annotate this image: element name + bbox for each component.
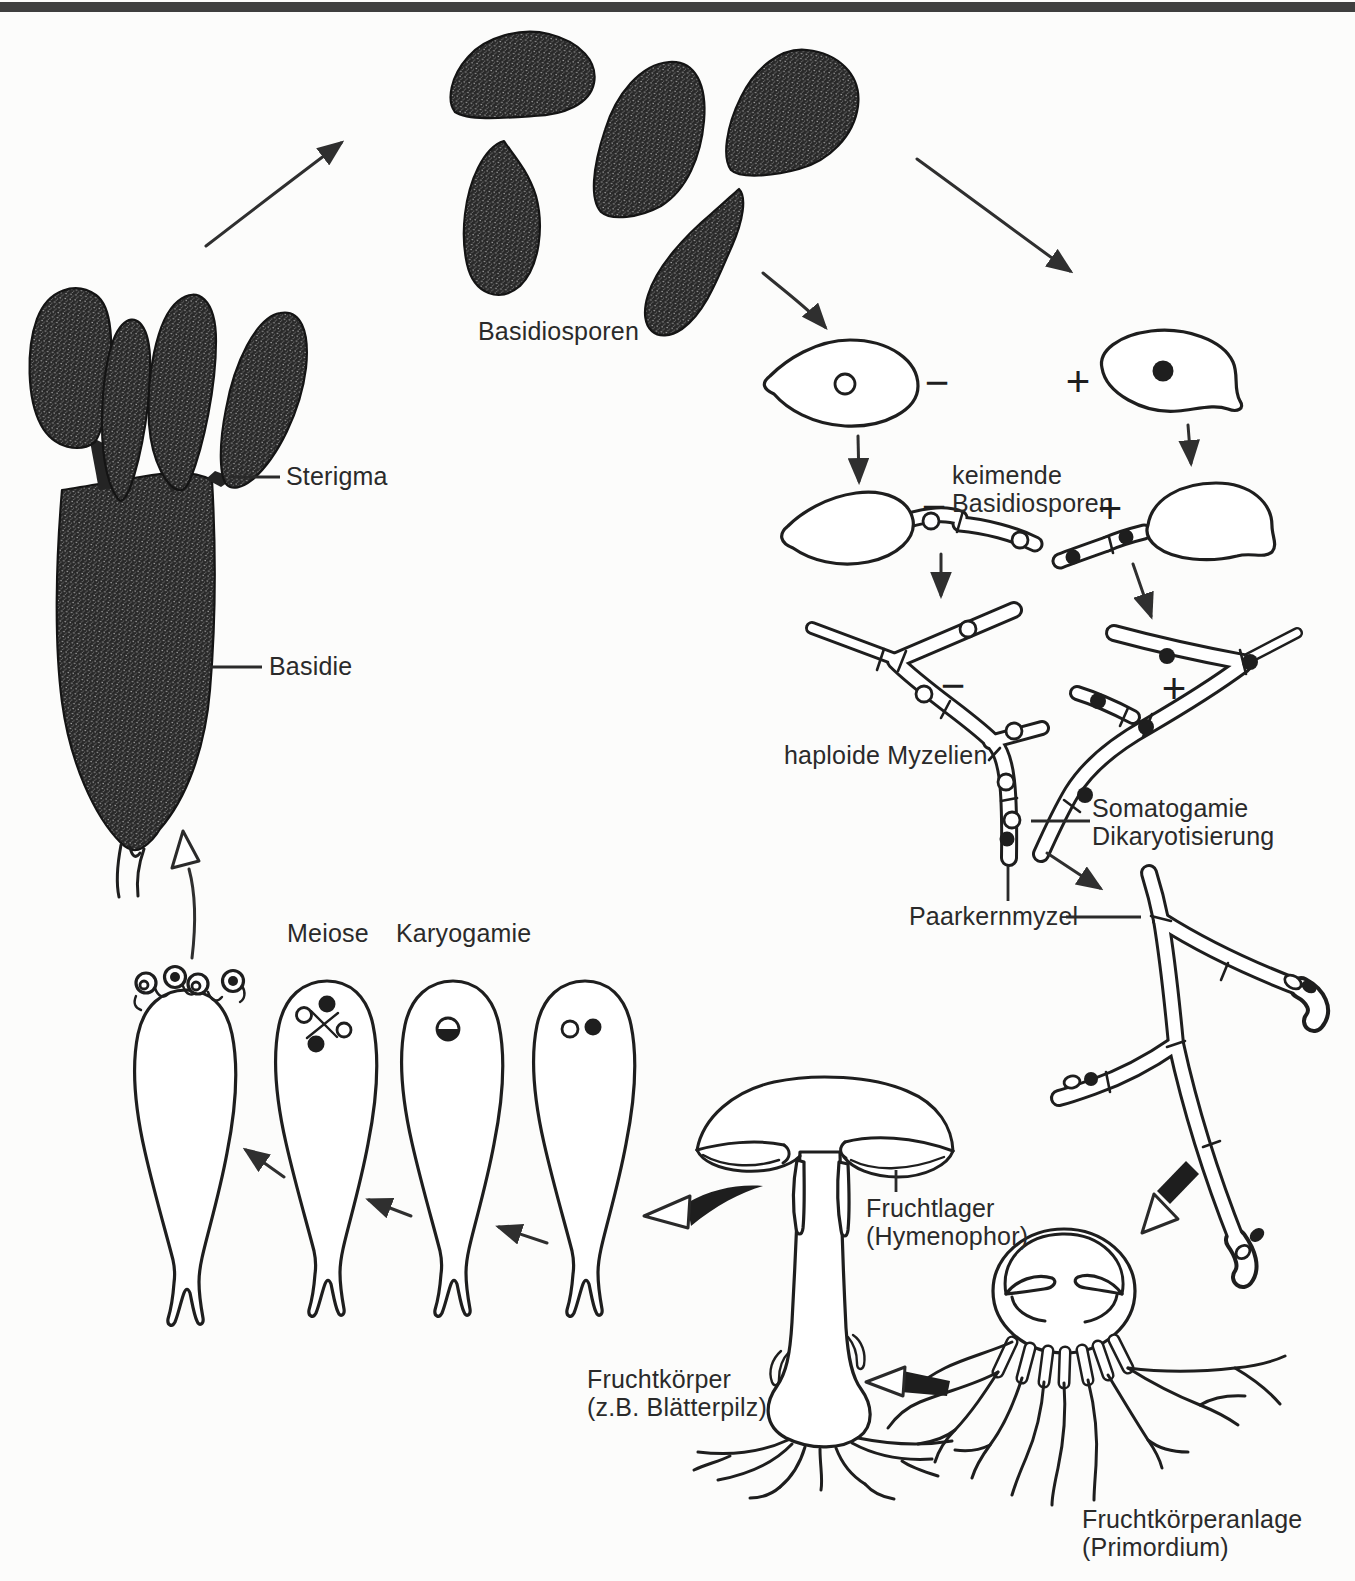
mushroom-stem bbox=[768, 1152, 870, 1447]
label-sterigma: Sterigma bbox=[286, 462, 388, 490]
arrow-dikaryon-to-primordium-tail bbox=[1157, 1161, 1199, 1204]
basidium-meiosis bbox=[275, 981, 376, 1316]
plus-sign-free-spore: + bbox=[1066, 361, 1091, 403]
arrow-somatogamy-to-dikaryon bbox=[1047, 853, 1100, 888]
arrow-plus-spore-down bbox=[1188, 425, 1191, 463]
arrow-mushroom-to-basidia-head bbox=[644, 1196, 690, 1228]
label-basidie: Basidie bbox=[269, 652, 352, 680]
arrow-karyogamy-to-meiosis bbox=[369, 1200, 411, 1216]
arrow-meiosis-to-spore-basidium bbox=[246, 1150, 284, 1177]
arrow-primordium-to-mushroom-head bbox=[866, 1367, 905, 1396]
primordium-rhizomorphs bbox=[888, 1340, 1285, 1505]
basidiospores-cluster bbox=[451, 32, 859, 336]
arrow-basidium-to-spores bbox=[206, 143, 341, 246]
label-fruchtkoerperanlage: Fruchtkörperanlage (Primordium) bbox=[1082, 1505, 1302, 1562]
label-meiose: Meiose bbox=[287, 919, 369, 947]
arrow-dikaryon-to-karyogamy bbox=[499, 1227, 547, 1243]
basidium-with-spores bbox=[134, 990, 235, 1325]
label-basidiosporen: Basidiosporen bbox=[478, 317, 639, 345]
label-fruchtlager: Fruchtlager (Hymenophor) bbox=[866, 1194, 1028, 1251]
arrow-plus-germ-down bbox=[1133, 564, 1151, 616]
diagram-canvas bbox=[0, 0, 1355, 1581]
haploid-mycelium-minus bbox=[812, 610, 1042, 858]
arrow-basidia-to-large-basidium-tail bbox=[189, 869, 195, 958]
arrow-primordium-to-mushroom-tail bbox=[901, 1371, 950, 1396]
label-karyogamie: Karyogamie bbox=[396, 919, 531, 947]
dikaryotic-mycelium bbox=[1059, 873, 1319, 1277]
label-paarkernmyzel: Paarkernmyzel bbox=[909, 902, 1078, 930]
haploid-spores bbox=[764, 330, 1241, 426]
minus-germinating-spore bbox=[782, 492, 914, 564]
minus-sign-free-spore: − bbox=[925, 362, 950, 404]
label-somatogamie: Somatogamie Dikaryotisierung bbox=[1092, 794, 1274, 851]
large-basidium bbox=[30, 288, 307, 897]
minus-sign-germinating: − bbox=[922, 486, 947, 528]
plus-germinating-spore bbox=[1147, 483, 1275, 560]
diagram-page: Basidiosporen Sterigma Basidie keimende … bbox=[0, 0, 1355, 1581]
plus-sign-germinating: + bbox=[1098, 488, 1123, 530]
basidia-development-row bbox=[134, 967, 634, 1326]
label-keimende-basidiosporen: keimende Basidiosporen bbox=[952, 461, 1113, 518]
label-haploide-myzelien: haploide Myzelien bbox=[784, 741, 988, 769]
arrow-spores-to-plus bbox=[917, 159, 1070, 271]
arrow-spores-to-minus bbox=[763, 273, 825, 327]
mushroom-fruit-body bbox=[694, 1077, 953, 1499]
label-fruchtkoerper: Fruchtkörper (z.B. Blätterpilz) bbox=[587, 1365, 767, 1422]
plus-sign-mycelium: + bbox=[1162, 668, 1187, 710]
basidium-dikaryotic bbox=[533, 981, 634, 1316]
arrow-mushroom-to-basidia-tail bbox=[687, 1186, 763, 1226]
arrow-minus-spore-down bbox=[858, 436, 859, 481]
primordium bbox=[888, 1229, 1285, 1505]
arrow-basidia-to-large-basidium-head bbox=[172, 831, 199, 868]
top-border-bar bbox=[0, 2, 1355, 12]
minus-sign-mycelium: − bbox=[941, 665, 966, 707]
